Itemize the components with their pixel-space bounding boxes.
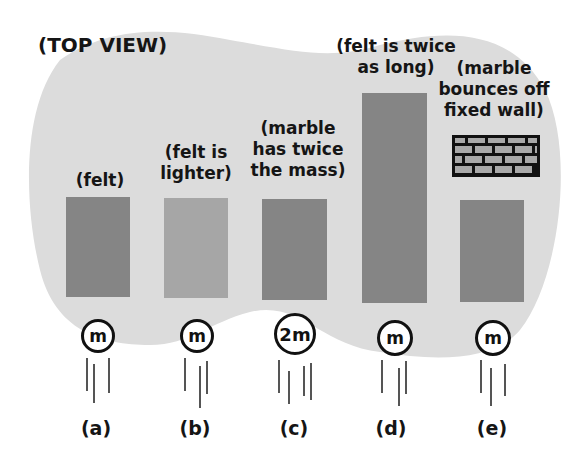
motion-line — [504, 364, 506, 396]
motion-line — [199, 366, 201, 408]
marble-c: 2m — [274, 313, 316, 355]
motion-line — [398, 368, 400, 406]
motion-line — [93, 364, 95, 403]
motion-line — [381, 360, 383, 393]
marble-d: m — [377, 320, 413, 356]
marble-e: m — [475, 320, 511, 356]
motion-line — [206, 361, 208, 394]
motion-line — [405, 361, 407, 394]
case-label-e: (e) — [472, 417, 512, 439]
caption-c: (marble has twice the mass) — [250, 118, 346, 181]
motion-line — [184, 358, 186, 391]
felt-c — [262, 199, 327, 300]
felt-e — [460, 200, 524, 302]
motion-line — [480, 360, 482, 393]
caption-e: (marble bounces off fixed wall) — [438, 58, 550, 121]
case-label-c: (c) — [274, 417, 314, 439]
marble-a: m — [81, 319, 115, 353]
felt-d — [362, 93, 427, 303]
motion-line — [108, 358, 110, 393]
motion-line — [490, 368, 492, 406]
motion-line — [86, 358, 88, 391]
felt-a — [66, 197, 130, 297]
case-label-b: (b) — [175, 417, 215, 439]
motion-line — [288, 371, 290, 404]
caption-a: (felt) — [68, 170, 132, 191]
fixed-wall-brick-icon — [452, 135, 540, 177]
case-label-d: (d) — [371, 417, 411, 439]
motion-line — [310, 363, 312, 400]
caption-b: (felt is lighter) — [160, 142, 232, 184]
case-label-a: (a) — [76, 417, 116, 439]
marble-b: m — [180, 319, 214, 353]
felt-b — [164, 198, 228, 298]
motion-line — [303, 366, 305, 396]
motion-line — [278, 360, 280, 393]
view-title: (TOP VIEW) — [38, 33, 167, 57]
